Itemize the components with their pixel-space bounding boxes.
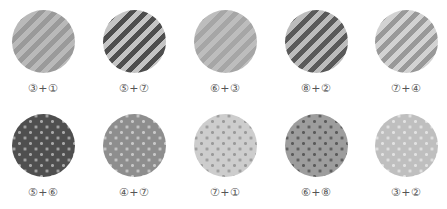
striped-swatch: [375, 10, 438, 73]
swatch-label: ⑥+③: [185, 82, 265, 95]
striped-swatch: [103, 10, 166, 73]
dotted-swatch: [375, 114, 438, 177]
swatch-item: ⑥+⑧: [276, 114, 356, 199]
swatch-item: ⑥+③: [185, 10, 265, 95]
swatch-item: ⑦+④: [366, 10, 446, 95]
swatch-grid: ③+① ⑤+⑦ ⑥+③ ⑧+② ⑦+④ ⑤+⑥ ④+⑦ ⑦+① ⑥+⑧ ③+②: [0, 0, 447, 209]
swatch-item: ⑦+①: [185, 114, 265, 199]
swatch-label: ⑦+①: [185, 186, 265, 199]
swatch-label: ⑤+⑦: [94, 82, 174, 95]
swatch-label: ③+①: [3, 82, 83, 95]
swatch-label: ⑦+④: [366, 82, 446, 95]
swatch-label: ④+⑦: [94, 186, 174, 199]
striped-swatch: [194, 10, 257, 73]
swatch-item: ⑤+⑦: [94, 10, 174, 95]
swatch-item: ④+⑦: [94, 114, 174, 199]
swatch-item: ③+①: [3, 10, 83, 95]
dotted-swatch: [12, 114, 75, 177]
striped-swatch: [12, 10, 75, 73]
swatch-item: ③+②: [366, 114, 446, 199]
swatch-label: ⑥+⑧: [276, 186, 356, 199]
swatch-item: ⑧+②: [276, 10, 356, 95]
swatch-label: ⑤+⑥: [3, 186, 83, 199]
dotted-swatch: [103, 114, 166, 177]
swatch-label: ⑧+②: [276, 82, 356, 95]
dotted-swatch: [194, 114, 257, 177]
swatch-label: ③+②: [366, 186, 446, 199]
striped-swatch: [285, 10, 348, 73]
swatch-item: ⑤+⑥: [3, 114, 83, 199]
dotted-swatch: [285, 114, 348, 177]
